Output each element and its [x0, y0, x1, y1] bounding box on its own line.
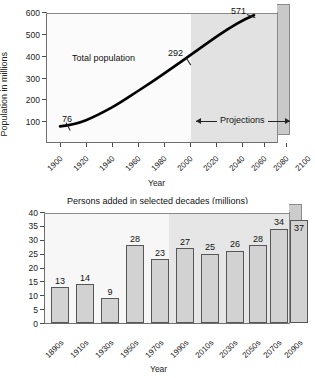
- bottom-y-tick-20: [40, 268, 44, 269]
- top-chart-y-axis-title: Population in millions: [0, 52, 9, 137]
- bar-1910s: [76, 284, 94, 323]
- bar-2090s: [290, 220, 308, 323]
- bar-2030s: [226, 251, 244, 323]
- bottom-x-label-1990s: 1990s: [169, 338, 191, 360]
- bottom-chart-plot-area: 13 14 9 28 23 27 25 26 28 34 37: [44, 212, 302, 324]
- top-y-label-300: 300: [10, 75, 40, 84]
- projections-arrow-left-icon: [196, 118, 201, 124]
- top-x-label-1940: 1940: [98, 154, 117, 173]
- bottom-y-tick-10: [40, 295, 44, 296]
- bottom-y-tick-5: [40, 309, 44, 310]
- bottom-x-label-1970s: 1970s: [144, 338, 166, 360]
- bar-2070s: [270, 229, 288, 323]
- bottom-y-label-20: 20: [10, 264, 38, 273]
- bottom-x-label-2070s: 2070s: [262, 338, 284, 360]
- bottom-y-tick-0: [40, 323, 44, 324]
- top-x-label-2020: 2020: [202, 154, 221, 173]
- top-y-label-200: 200: [10, 96, 40, 105]
- top-y-label-500: 500: [10, 31, 40, 40]
- persons-added-bar-chart: Persons added in selected decades (milli…: [0, 190, 315, 378]
- top-x-label-2040: 2040: [228, 154, 247, 173]
- top-x-label-2060: 2060: [250, 154, 269, 173]
- bottom-y-label-10: 10: [10, 292, 38, 301]
- bottom-y-tick-15: [40, 281, 44, 282]
- bar-2010s: [201, 254, 219, 323]
- bar-value-1890s: 13: [51, 276, 69, 286]
- bar-1890s: [51, 287, 69, 323]
- top-x-label-1920: 1920: [72, 154, 91, 173]
- top-x-label-2100: 2100: [294, 154, 313, 173]
- data-label-2000: 292: [168, 48, 183, 58]
- bar-1970s: [151, 259, 169, 323]
- top-chart-x-axis-title: Year: [148, 178, 165, 188]
- bottom-y-label-40: 40: [10, 209, 38, 218]
- bottom-y-tick-25: [40, 254, 44, 255]
- top-x-label-2000: 2000: [176, 154, 195, 173]
- bottom-x-label-2090s: 2090s: [283, 338, 305, 360]
- bottom-x-label-1910s: 1910s: [69, 338, 91, 360]
- bottom-x-label-1950s: 1950s: [119, 338, 141, 360]
- data-label-2100: 571: [231, 6, 246, 16]
- bar-value-2090s: 37: [290, 223, 308, 233]
- bar-value-1970s: 23: [151, 248, 169, 258]
- bar-2050s: [249, 245, 267, 323]
- projections-arrow-right-icon: [285, 118, 290, 124]
- projections-annotation: Projections: [196, 115, 290, 127]
- bottom-y-label-15: 15: [10, 278, 38, 287]
- top-y-label-600: 600: [10, 9, 40, 18]
- bottom-y-label-25: 25: [10, 250, 38, 259]
- bottom-y-tick-40: [40, 212, 44, 213]
- total-population-line-chart: Population in millions: [0, 0, 315, 190]
- bar-1950s: [126, 245, 144, 323]
- bar-value-1990s: 27: [176, 237, 194, 247]
- top-y-label-400: 400: [10, 53, 40, 62]
- top-chart-plot-area: Projections Total population 76 292 571: [46, 12, 290, 143]
- top-x-label-1960: 1960: [124, 154, 143, 173]
- bar-value-2050s: 28: [249, 234, 267, 244]
- bottom-x-label-2010s: 2010s: [194, 338, 216, 360]
- bottom-y-label-35: 35: [10, 222, 38, 231]
- bottom-chart-x-axis-title: Year: [150, 364, 167, 374]
- bottom-y-label-0: 0: [10, 320, 38, 329]
- bottom-x-label-1890s: 1890s: [44, 338, 66, 360]
- bottom-x-label-2030s: 2030s: [218, 338, 240, 360]
- bottom-x-label-1930s: 1930s: [94, 338, 116, 360]
- bottom-y-tick-35: [40, 226, 44, 227]
- bar-value-1930s: 9: [101, 287, 119, 297]
- top-y-label-100: 100: [10, 118, 40, 127]
- bar-1990s: [176, 248, 194, 323]
- bottom-x-label-2050s: 2050s: [241, 338, 263, 360]
- bar-value-2030s: 26: [226, 239, 244, 249]
- bar-value-1910s: 14: [76, 273, 94, 283]
- total-population-series-label: Total population: [72, 53, 135, 63]
- bottom-y-tick-30: [40, 240, 44, 241]
- top-x-label-1900: 1900: [46, 154, 65, 173]
- top-x-label-2080: 2080: [272, 154, 291, 173]
- bar-value-2010s: 25: [201, 242, 219, 252]
- bottom-chart-3d-top-face: [44, 204, 297, 214]
- bottom-y-label-30: 30: [10, 236, 38, 245]
- bar-value-2070s: 34: [270, 217, 288, 227]
- projections-label: Projections: [217, 115, 268, 125]
- bar-value-1950s: 28: [126, 234, 144, 244]
- top-x-label-1980: 1980: [150, 154, 169, 173]
- bar-1930s: [101, 298, 119, 323]
- bottom-y-label-5: 5: [10, 306, 38, 315]
